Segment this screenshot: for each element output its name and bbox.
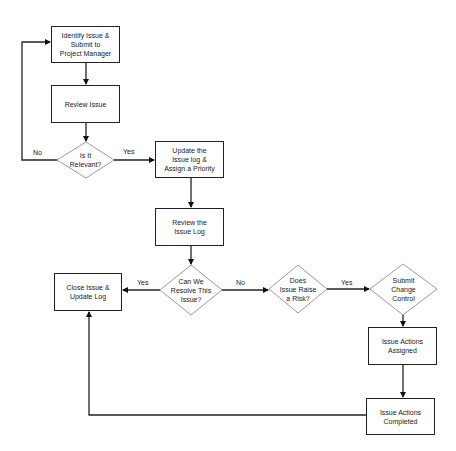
edge-label-resolve-yes: Yes xyxy=(137,278,148,287)
node-update-issue-log: Update the Issue log & Assign a Priority xyxy=(155,141,224,178)
edge-label-relevant-no: No xyxy=(33,148,42,157)
node-review-issue-log: Review the Issue Log xyxy=(155,208,224,246)
flowchart-connectors xyxy=(0,0,456,451)
label-raise-risk: Does Issue Raise a Risk? xyxy=(269,265,327,313)
node-identify-issue: Identify Issue & Submit to Project Manag… xyxy=(51,26,120,63)
edge-label-resolve-no: No xyxy=(236,278,245,287)
label-can-resolve: Can We Resolve This Issue? xyxy=(160,265,222,315)
node-review-issue: Review Issue xyxy=(51,85,120,123)
node-close-issue: Close Issue & Update Log xyxy=(54,273,122,311)
label-change-control: Submit Change Control xyxy=(370,264,437,315)
node-issue-actions-completed: Issue Actions Completed xyxy=(366,398,435,435)
node-issue-actions-assigned: Issue Actions Assigned xyxy=(368,327,437,365)
edge-completed-close xyxy=(89,312,366,415)
edge-label-risk-yes: Yes xyxy=(341,278,352,287)
edge-label-relevant-yes: Yes xyxy=(123,147,134,156)
label-is-relevant: Is It Relevant? xyxy=(57,142,114,178)
